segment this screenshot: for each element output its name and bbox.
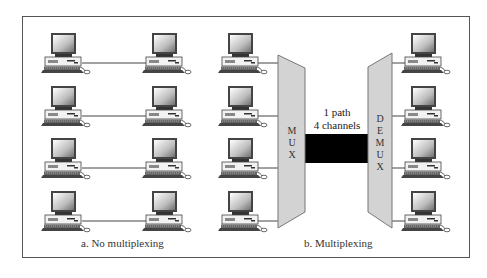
demux-letter: M — [373, 137, 387, 149]
desktop-computer-icon — [41, 86, 90, 127]
mux-letter: U — [285, 137, 299, 149]
desktop-computer-icon — [401, 138, 450, 179]
desktop-computer-icon — [41, 33, 90, 74]
desktop-computer-icon — [41, 138, 90, 179]
desktop-computer-icon — [218, 138, 267, 179]
path-label-line-1: 1 path — [297, 106, 377, 119]
path-label-line-2: 4 channels — [297, 119, 377, 132]
desktop-computer-icon — [41, 191, 90, 232]
caption-no-multiplexing: a. No multiplexing — [81, 237, 164, 249]
desktop-computer-icon — [142, 191, 191, 232]
desktop-computer-icon — [218, 191, 267, 232]
desktop-computer-icon — [142, 138, 191, 179]
path-label: 1 path 4 channels — [297, 106, 377, 132]
demux-letter: X — [373, 161, 387, 173]
desktop-computer-icon — [401, 86, 450, 127]
caption-multiplexing: b. Multiplexing — [304, 237, 372, 249]
panel-no-multiplexing — [41, 33, 191, 232]
desktop-computer-icon — [218, 86, 267, 127]
desktop-computer-icon — [218, 33, 267, 74]
panel-multiplexing — [218, 33, 450, 232]
shared-link-bar — [305, 134, 369, 163]
multiplexing-diagram: M U X D E M U X 1 path 4 channels a. No … — [0, 0, 487, 278]
desktop-computer-icon — [142, 33, 191, 74]
desktop-computer-icon — [142, 86, 191, 127]
demux-letter: U — [373, 149, 387, 161]
desktop-computer-icon — [401, 191, 450, 232]
desktop-computer-icon — [401, 33, 450, 74]
diagram-canvas — [0, 0, 487, 278]
mux-letter: X — [285, 149, 299, 161]
